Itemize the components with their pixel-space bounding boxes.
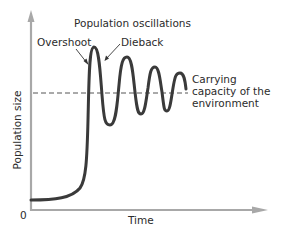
x-axis-arrow-icon <box>252 207 268 214</box>
population-curve <box>31 47 186 200</box>
dieback-arrow <box>106 44 120 59</box>
x-axis-label: Time <box>128 214 154 226</box>
y-axis-label: Population size <box>11 91 23 170</box>
origin-label: 0 <box>20 209 27 221</box>
y-axis-arrow-icon <box>28 10 35 22</box>
overshoot-label: Overshoot <box>37 36 91 48</box>
carrying-capacity-label: Carrying capacity of the environment <box>192 73 272 109</box>
chart-title: Population oscillations <box>74 17 191 29</box>
dieback-label: Dieback <box>121 36 163 48</box>
